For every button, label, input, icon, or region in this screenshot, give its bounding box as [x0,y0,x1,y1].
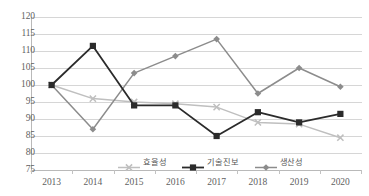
legend-item-1[interactable]: 기술진보 [182,158,238,167]
y-tick-label: 110 [7,46,35,55]
legend-label: 생산성 [280,158,303,167]
x-tick-label: 2013 [30,177,74,187]
x-tick-mark [114,170,115,174]
x-tick-mark [279,170,280,174]
chart-legend: 효율성기술진보생산성 [118,155,318,169]
legend-swatch-icon [118,158,140,167]
plot-area [31,17,361,170]
gridline [32,51,362,52]
x-tick-mark [237,170,238,174]
legend-label: 효율성 [143,158,166,167]
y-tick-label: 95 [7,97,35,106]
x-tick-label: 2019 [277,177,321,187]
legend-swatch-icon [255,158,277,167]
legend-label: 기술진보 [207,158,238,167]
y-tick-label: 105 [7,63,35,72]
y-tick-label: 115 [7,29,35,38]
gridline [32,68,362,69]
y-tick-label: 120 [7,12,35,21]
y-tick-label: 90 [7,114,35,123]
y-tick-label: 85 [7,131,35,140]
gridline [32,153,362,154]
gridline [32,34,362,35]
legend-swatch-icon [182,158,204,167]
x-tick-mark [155,170,156,174]
x-tick-label: 2016 [153,177,197,187]
data-point-marker [190,164,196,170]
gridline [32,102,362,103]
x-tick-mark [320,170,321,174]
gridline [32,119,362,120]
legend-item-2[interactable]: 생산성 [255,158,303,167]
x-tick-mark [31,170,32,174]
x-tick-mark [361,170,362,174]
y-tick-label: 100 [7,80,35,89]
x-tick-label: 2018 [236,177,280,187]
y-tick-label: 80 [7,148,35,157]
gridline [32,17,362,18]
x-tick-label: 2015 [112,177,156,187]
x-tick-label: 2014 [71,177,115,187]
legend-item-0[interactable]: 효율성 [118,158,166,167]
gridline [32,85,362,86]
line-chart: 1201151101051009590858075 20132014201520… [0,0,369,196]
x-tick-label: 2017 [195,177,239,187]
x-tick-label: 2020 [318,177,362,187]
x-tick-mark [72,170,73,174]
data-point-marker [262,164,269,171]
gridline [32,136,362,137]
